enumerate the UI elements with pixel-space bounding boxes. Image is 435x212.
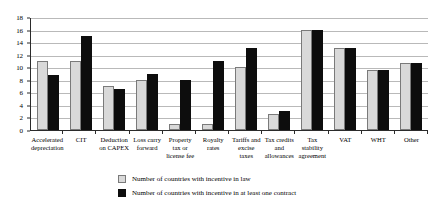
plot-area <box>30 18 428 131</box>
x-axis-tick-cell <box>395 131 428 135</box>
x-axis-category-label: CIT <box>65 136 98 161</box>
bar-law <box>268 114 279 130</box>
bar-contract <box>213 61 224 130</box>
bar-law <box>103 86 114 130</box>
bar-contract <box>411 63 422 130</box>
bar-law <box>400 63 411 130</box>
bar-contract <box>48 75 59 130</box>
x-axis-tick-cell <box>329 131 362 135</box>
bar-group <box>163 18 196 130</box>
x-axis-tick-cell <box>30 131 63 135</box>
bar-group <box>395 18 428 130</box>
bar-contract <box>114 89 125 130</box>
bar-law <box>70 61 81 130</box>
bar-law <box>37 61 48 130</box>
x-axis-category-label: Tax stability agreement <box>296 136 329 161</box>
x-axis-tick-cell <box>196 131 229 135</box>
bar-law <box>136 80 147 130</box>
bar-group <box>229 18 262 130</box>
x-axis-tick-cell <box>295 131 328 135</box>
bar-group <box>97 18 130 130</box>
bar-law <box>367 70 378 130</box>
bar-group <box>64 18 97 130</box>
bar-law <box>235 67 246 130</box>
x-axis-labels: Accelerated depreciationCITDeduction on … <box>30 136 428 161</box>
x-axis-category-label: Accelerated depreciation <box>30 136 65 161</box>
x-axis-category-label: Tax credits and allowances <box>263 136 296 161</box>
bar-contract <box>147 74 158 131</box>
legend-swatch-contract-icon <box>118 189 126 197</box>
bar-contract <box>279 111 290 130</box>
bar-group <box>31 18 64 130</box>
legend-swatch-law-icon <box>118 175 126 183</box>
legend-item-contract: Number of countries with incentive in at… <box>118 187 296 199</box>
x-axis-tick-cell <box>130 131 163 135</box>
bar-law <box>301 30 312 130</box>
y-axis-tick-label: 12 <box>16 52 23 59</box>
bar-contract <box>312 30 323 130</box>
bar-law <box>334 48 345 130</box>
bars-layer <box>31 18 428 130</box>
legend-label-contract: Number of countries with incentive in at… <box>132 189 296 197</box>
x-axis-tick-cell <box>163 131 196 135</box>
bar-group <box>296 18 329 130</box>
x-axis-tick-cell <box>262 131 295 135</box>
bar-contract <box>246 48 257 130</box>
x-axis-ticks <box>30 131 428 135</box>
y-axis-tick-label: 10 <box>16 65 23 72</box>
bar-group <box>196 18 229 130</box>
bar-group <box>130 18 163 130</box>
y-axis: 181614121086420 <box>0 12 30 137</box>
bar-group <box>362 18 395 130</box>
bar-group <box>329 18 362 130</box>
bar-contract <box>180 80 191 130</box>
y-axis-tick-label: 16 <box>16 27 23 34</box>
y-axis-tick-label: 0 <box>20 128 23 135</box>
x-axis-category-label: Deduction on CAPEX <box>98 136 131 161</box>
bar-contract <box>81 36 92 130</box>
x-axis-tick-cell <box>229 131 262 135</box>
x-axis-category-label: WHT <box>362 136 395 161</box>
bar-contract <box>345 48 356 130</box>
x-axis-category-label: Other <box>395 136 428 161</box>
y-axis-tick-label: 14 <box>16 40 23 47</box>
bar-group <box>263 18 296 130</box>
x-axis-tick-cell <box>63 131 96 135</box>
bar-law <box>169 124 180 130</box>
x-axis-tick-mark <box>427 131 428 134</box>
x-axis-category-label: Tariffs and excise taxes <box>230 136 263 161</box>
x-axis-category-label: VAT <box>329 136 362 161</box>
x-axis-tick-cell <box>362 131 395 135</box>
y-axis-tick-label: 8 <box>20 77 23 84</box>
legend-item-law: Number of countries with incentive in la… <box>118 173 296 185</box>
x-axis-category-label: Loss carry forward <box>131 136 164 161</box>
y-axis-tick-label: 18 <box>16 15 23 22</box>
bar-contract <box>378 70 389 130</box>
legend: Number of countries with incentive in la… <box>118 173 296 201</box>
x-axis-tick-cell <box>96 131 129 135</box>
legend-label-law: Number of countries with incentive in la… <box>132 175 251 183</box>
y-axis-tick-label: 6 <box>20 90 23 97</box>
bar-chart: 181614121086420 Accelerated depreciation… <box>0 0 435 212</box>
y-axis-tick-label: 4 <box>20 102 23 109</box>
x-axis-category-label: Royalty rates <box>197 136 230 161</box>
y-axis-tick-label: 2 <box>20 115 23 122</box>
bar-law <box>202 124 213 130</box>
x-axis-category-label: Property tax or license fee <box>164 136 197 161</box>
